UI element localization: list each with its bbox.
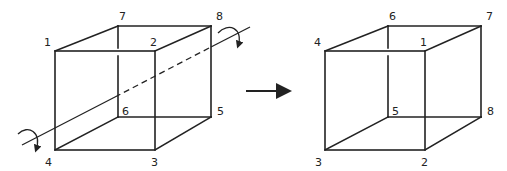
rotation-axis [22, 27, 250, 145]
vertex-label: 3 [315, 156, 322, 169]
left-cube: 1 2 3 4 5 6 7 8 [18, 10, 250, 169]
vertex-label: 1 [44, 36, 51, 49]
vertex-label: 7 [486, 10, 493, 23]
vertex-label: 1 [420, 36, 427, 49]
vertex-label: 8 [487, 105, 494, 118]
vertex-label: 5 [392, 105, 399, 118]
vertex-label: 4 [45, 156, 52, 169]
vertex-label: 6 [122, 105, 129, 118]
right-cube: 4 1 2 3 8 5 6 7 [314, 10, 494, 169]
diagram-canvas: 1 2 3 4 5 6 7 8 4 1 2 3 8 5 6 7 [0, 0, 507, 171]
rotation-arrow-icon [218, 27, 239, 46]
vertex-label: 2 [421, 156, 428, 169]
vertex-label: 6 [389, 10, 396, 23]
vertex-label: 2 [150, 36, 157, 49]
vertex-label: 7 [119, 10, 126, 23]
vertex-label: 3 [151, 156, 158, 169]
vertex-label: 5 [217, 105, 224, 118]
rotation-arrow-icon [18, 130, 37, 150]
vertex-label: 8 [216, 10, 223, 23]
vertex-label: 4 [314, 36, 321, 49]
